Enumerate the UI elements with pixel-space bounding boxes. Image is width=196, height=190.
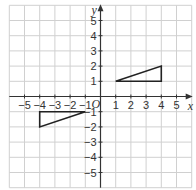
x-tick-label: 1: [113, 99, 119, 111]
y-tick-label: 3: [90, 45, 96, 57]
coordinate-grid-figure: −5−4−3−2−11234554321−1−2−3−4−5xyO: [0, 0, 196, 190]
x-tick-label: −4: [33, 99, 46, 111]
y-axis-label: y: [91, 3, 98, 17]
coordinate-plane: −5−4−3−2−11234554321−1−2−3−4−5xyO: [0, 0, 196, 190]
y-tick-label: −4: [84, 151, 97, 163]
x-tick-label: −5: [18, 99, 31, 111]
axes: [9, 4, 192, 187]
y-tick-label: 2: [90, 60, 96, 72]
origin-label: O: [92, 97, 101, 111]
triangle-A: [116, 66, 162, 81]
y-tick-label: 1: [90, 75, 96, 87]
triangle-B: [40, 112, 86, 127]
x-tick-label: 5: [173, 99, 179, 111]
x-axis-label: x: [187, 99, 194, 113]
x-tick-label: −2: [64, 99, 77, 111]
y-tick-label: −5: [84, 167, 97, 179]
tick-labels: −5−4−3−2−11234554321−1−2−3−4−5xyO: [18, 3, 193, 178]
y-tick-label: 4: [90, 30, 96, 42]
y-tick-label: −2: [84, 121, 97, 133]
x-tick-label: −3: [49, 99, 62, 111]
x-tick-label: 3: [143, 99, 149, 111]
x-tick-label: 2: [128, 99, 134, 111]
x-tick-label: 4: [158, 99, 164, 111]
y-tick-label: −3: [84, 136, 97, 148]
